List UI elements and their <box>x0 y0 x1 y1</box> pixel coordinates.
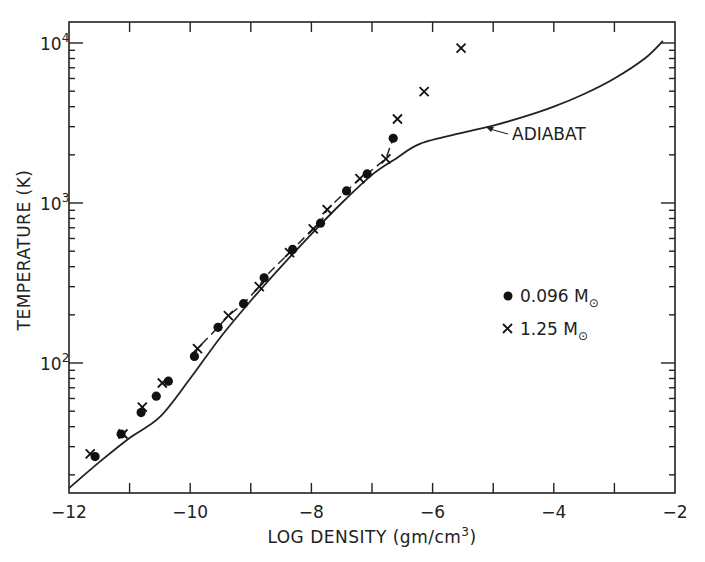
x-tick-label: −12 <box>51 502 87 522</box>
series-0096-msun-points <box>90 134 397 462</box>
legend-dot-icon <box>504 292 513 301</box>
x-tick-label: −4 <box>541 502 566 522</box>
plot-frame <box>69 22 675 493</box>
axis-ticks <box>69 22 675 493</box>
legend-cross-icon <box>503 324 512 333</box>
y-axis-title: TEMPERATURE (K) <box>14 170 34 332</box>
series-125-msun-points <box>86 44 466 459</box>
data-point-cross <box>224 311 233 320</box>
adiabat-annotation: ADIABAT <box>486 124 586 144</box>
data-point-dot <box>190 352 199 361</box>
x-tick-label: −8 <box>299 502 324 522</box>
data-point-dot <box>342 186 351 195</box>
y-tick-labels: 102103104 <box>40 31 69 374</box>
chart-canvas: −12−10−8−6−4−2 102103104 LOG DENSITY (gm… <box>0 0 705 562</box>
data-point-cross <box>381 154 390 163</box>
annotation-arrow <box>490 129 508 134</box>
data-point-cross <box>323 205 332 214</box>
data-point-dot <box>239 299 248 308</box>
x-axis-title: LOG DENSITY (gm/cm3) <box>267 525 476 547</box>
data-point-dot <box>152 392 161 401</box>
y-tick-label: 103 <box>40 191 69 214</box>
x-tick-label: −2 <box>662 502 687 522</box>
data-point-dot <box>117 429 126 438</box>
adiabat-label: ADIABAT <box>512 124 586 144</box>
x-tick-labels: −12−10−8−6−4−2 <box>51 502 687 522</box>
data-point-cross <box>355 174 364 183</box>
y-tick-label: 102 <box>40 351 69 374</box>
legend-label-1: 1.25 M⊙ <box>520 319 588 343</box>
data-point-cross <box>457 44 466 53</box>
data-point-cross <box>193 344 202 353</box>
legend: 0.096 M⊙ 1.25 M⊙ <box>503 286 599 343</box>
x-tick-label: −6 <box>420 502 445 522</box>
y-tick-label: 104 <box>40 31 69 54</box>
data-point-dot <box>260 273 269 282</box>
data-point-cross <box>393 114 402 123</box>
data-point-dot <box>389 134 398 143</box>
data-point-cross <box>420 87 429 96</box>
data-point-dot <box>213 323 222 332</box>
adiabat-curve <box>69 41 663 488</box>
data-point-dot <box>316 219 325 228</box>
legend-label-0: 0.096 M⊙ <box>520 286 599 310</box>
x-tick-label: −10 <box>172 502 208 522</box>
